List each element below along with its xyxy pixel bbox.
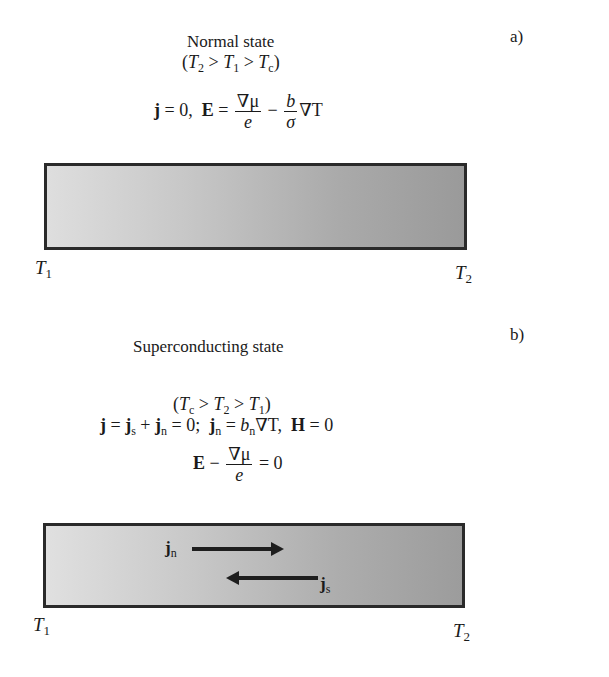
subscript: s xyxy=(326,582,331,596)
subscript: 2 xyxy=(464,629,471,644)
operator: = xyxy=(106,415,125,435)
panel-b-t2-label: T2 xyxy=(453,620,470,642)
operator: > xyxy=(194,394,213,414)
operator: > xyxy=(239,52,258,72)
denominator: e xyxy=(244,112,252,131)
panel-b-equation-currents: j = js + jn = 0; jn = bn∇T, H = 0 xyxy=(100,414,333,436)
panel-a-equation: j = 0, E = ∇μe − bσ∇T xyxy=(154,92,323,131)
panel-a-t1-label: T1 xyxy=(35,257,52,279)
var-t: T xyxy=(179,394,189,414)
panel-a-t2-label: T2 xyxy=(455,262,472,284)
var-t: T xyxy=(455,262,466,283)
subscript: 2 xyxy=(466,271,473,286)
var-t: T xyxy=(33,614,44,635)
operator: − xyxy=(205,453,224,473)
superconducting-state-bar xyxy=(43,523,465,608)
paren: ) xyxy=(265,394,271,414)
var-t: T xyxy=(35,257,46,278)
left-arrow-icon xyxy=(230,576,318,580)
panel-a-title: Normal state xyxy=(187,32,274,52)
operator: = 0 xyxy=(305,415,333,435)
paren: ) xyxy=(274,52,280,72)
panel-b-condition: (Tc > T2 > T1) xyxy=(173,394,271,415)
normal-current-label: jn xyxy=(165,538,177,558)
operator: = 0 xyxy=(254,453,282,473)
var-e-field: E xyxy=(202,100,214,120)
panel-a-label: a) xyxy=(510,27,523,47)
denominator: e xyxy=(235,465,243,484)
numerator: b xyxy=(284,92,297,112)
fraction: ∇μe xyxy=(226,445,252,484)
var-t: T xyxy=(258,52,268,72)
var-e-field: E xyxy=(193,453,205,473)
numerator: ∇μ xyxy=(226,445,252,465)
subscript: 1 xyxy=(44,623,51,638)
operator: = xyxy=(221,415,240,435)
operator: = 0; xyxy=(167,415,209,435)
numerator: ∇μ xyxy=(235,92,261,112)
operator: > xyxy=(230,394,249,414)
var-b: b xyxy=(240,415,249,435)
panel-b-equation-field: E − ∇μe = 0 xyxy=(193,445,283,484)
var-t: T xyxy=(188,52,198,72)
panel-a-condition: (T2 > T1 > Tc) xyxy=(182,52,280,73)
var-t: T xyxy=(249,394,259,414)
gradient-term: ∇T, xyxy=(255,415,291,435)
panel-b-t1-label: T1 xyxy=(33,614,50,636)
subscript: 1 xyxy=(46,266,53,281)
var-t: T xyxy=(223,52,233,72)
var-h-field: H xyxy=(291,415,305,435)
operator: − xyxy=(263,100,282,120)
operator: > xyxy=(204,52,223,72)
panel-b-label: b) xyxy=(510,325,524,345)
panel-b-title: Superconducting state xyxy=(133,337,284,357)
fraction: bσ xyxy=(284,92,297,131)
denominator: σ xyxy=(286,112,295,131)
var-t: T xyxy=(453,620,464,641)
super-current-label: js xyxy=(320,574,330,594)
normal-state-bar xyxy=(44,163,467,250)
operator: = xyxy=(214,100,233,120)
fraction: ∇μe xyxy=(235,92,261,131)
subscript: n xyxy=(171,546,177,560)
right-arrow-icon xyxy=(192,547,280,551)
var-t: T xyxy=(214,394,224,414)
operator: + xyxy=(136,415,155,435)
gradient-term: ∇T xyxy=(299,100,323,120)
operator: = 0, xyxy=(160,100,202,120)
